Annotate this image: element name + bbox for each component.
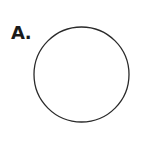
circle-figure	[0, 0, 146, 141]
circle-outline	[34, 27, 129, 122]
